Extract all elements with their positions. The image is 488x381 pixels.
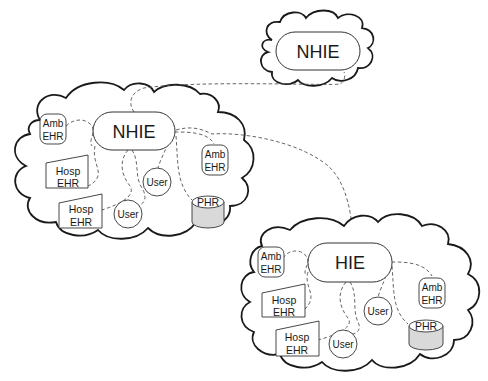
svg-text:EHR: EHR <box>70 216 93 228</box>
health-information-exchange-diagram: NHIE NHIE Amb EHR Hosp EHR <box>0 0 488 381</box>
left-phr-database: PHR <box>192 196 224 228</box>
svg-text:PHR: PHR <box>197 196 220 208</box>
svg-text:Amb: Amb <box>43 118 64 129</box>
svg-text:User: User <box>146 177 168 188</box>
right-user-1: User <box>364 297 392 325</box>
top-nhie-label: NHIE <box>296 42 339 62</box>
svg-text:Hosp: Hosp <box>272 294 297 306</box>
right-amb-ehr-1: Amb EHR <box>258 247 284 277</box>
svg-text:EHR: EHR <box>42 131 63 142</box>
svg-text:User: User <box>367 306 389 317</box>
svg-text:Hosp: Hosp <box>285 331 310 343</box>
left-nhie-label: NHIE <box>112 122 155 142</box>
svg-text:EHR: EHR <box>286 344 309 356</box>
top-nhie-cloud: NHIE <box>261 11 373 86</box>
left-amb-ehr-1: Amb EHR <box>40 114 66 144</box>
left-user-1: User <box>143 168 171 196</box>
svg-text:Amb: Amb <box>422 282 443 293</box>
right-hie-cloud: HIE Amb EHR Hosp EHR Hosp EHR User User <box>241 214 479 371</box>
svg-text:EHR: EHR <box>273 306 296 318</box>
svg-text:EHR: EHR <box>57 177 80 189</box>
svg-text:EHR: EHR <box>204 162 225 173</box>
svg-text:Amb: Amb <box>261 251 282 262</box>
svg-text:EHR: EHR <box>421 295 442 306</box>
svg-text:PHR: PHR <box>415 320 438 332</box>
right-hie-label: HIE <box>335 253 365 273</box>
svg-text:User: User <box>117 209 139 220</box>
svg-text:Hosp: Hosp <box>56 165 81 177</box>
svg-text:User: User <box>332 339 354 350</box>
svg-text:Hosp: Hosp <box>69 203 94 215</box>
svg-text:Amb: Amb <box>205 149 226 160</box>
svg-text:EHR: EHR <box>260 264 281 275</box>
right-phr-database: PHR <box>409 320 443 350</box>
right-amb-ehr-2: Amb EHR <box>419 278 445 308</box>
left-amb-ehr-2: Amb EHR <box>202 145 228 175</box>
right-user-2: User <box>329 330 357 358</box>
left-user-2: User <box>114 200 142 228</box>
